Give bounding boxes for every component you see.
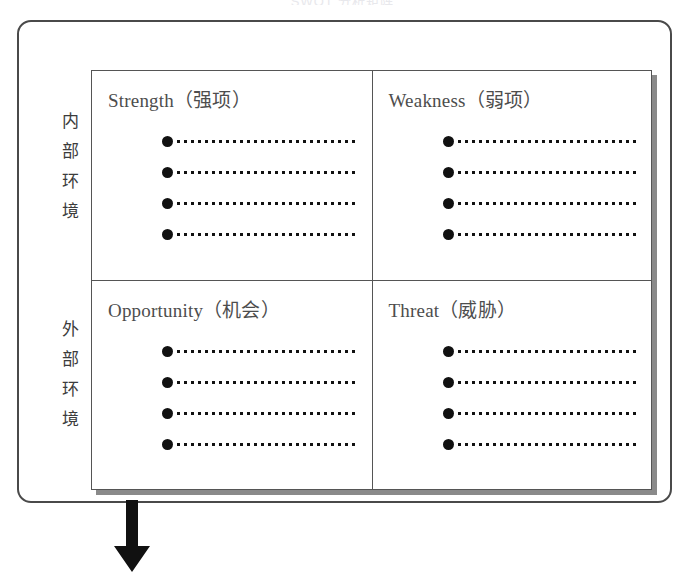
external-environment-label: 外 部 环 境 [55,314,85,434]
internal-env-char-1: 内 [55,106,85,136]
dotted-leader-line [456,233,638,236]
quadrant-threat: Threat（威胁） [372,280,652,489]
quadrant-weakness-bullets [389,126,652,250]
dotted-leader-line [175,202,358,205]
dotted-leader-line [456,350,638,353]
list-item[interactable] [389,126,652,157]
list-item[interactable] [389,429,652,460]
quadrant-strength-title: Strength（强项） [108,85,372,112]
dotted-leader-line [456,202,638,205]
quadrant-strength: Strength（强项） [92,71,372,280]
bullet-dot-icon [443,198,454,209]
bullet-dot-icon [162,377,173,388]
dotted-leader-line [175,381,358,384]
bullet-dot-icon [443,167,454,178]
list-item[interactable] [108,429,372,460]
list-item[interactable] [389,219,652,250]
bullet-dot-icon [443,229,454,240]
list-item[interactable] [389,188,652,219]
bullet-dot-icon [162,439,173,450]
list-item[interactable] [108,157,372,188]
list-item[interactable] [389,367,652,398]
list-item[interactable] [108,367,372,398]
external-env-char-2: 部 [55,344,85,374]
bullet-dot-icon [443,136,454,147]
quadrant-threat-title: Threat（威胁） [389,295,652,322]
quadrant-weakness-title: Weakness（弱项） [389,85,652,112]
internal-env-char-2: 部 [55,136,85,166]
dotted-leader-line [175,350,358,353]
bullet-dot-icon [162,167,173,178]
bullet-dot-icon [162,229,173,240]
list-item[interactable] [389,398,652,429]
bullet-dot-icon [162,136,173,147]
external-env-char-1: 外 [55,314,85,344]
bullet-dot-icon [443,408,454,419]
internal-env-char-3: 环 [55,166,85,196]
swot-outer-frame: 内 部 环 境 外 部 环 境 Strength（强项） Weakness（弱项… [17,20,672,503]
quadrant-opportunity-bullets [108,336,372,460]
list-item[interactable] [389,336,652,367]
quadrant-opportunity-title: Opportunity（机会） [108,295,372,322]
list-item[interactable] [108,188,372,219]
list-item[interactable] [108,336,372,367]
dotted-leader-line [175,233,358,236]
dotted-leader-line [456,140,638,143]
dotted-leader-line [175,443,358,446]
list-item[interactable] [108,126,372,157]
dotted-leader-line [175,171,358,174]
quadrant-strength-bullets [108,126,372,250]
list-item[interactable] [108,219,372,250]
dotted-leader-line [456,412,638,415]
dotted-leader-line [456,443,638,446]
internal-env-char-4: 境 [55,196,85,226]
internal-environment-label: 内 部 环 境 [55,106,85,226]
bullet-dot-icon [162,346,173,357]
bullet-dot-icon [443,439,454,450]
list-item[interactable] [389,157,652,188]
quadrant-threat-bullets [389,336,652,460]
list-item[interactable] [108,398,372,429]
external-env-char-4: 境 [55,404,85,434]
quadrant-opportunity: Opportunity（机会） [92,280,372,489]
bullet-dot-icon [443,377,454,388]
dotted-leader-line [456,381,638,384]
external-env-char-3: 环 [55,374,85,404]
dotted-leader-line [175,140,358,143]
bullet-dot-icon [162,198,173,209]
dotted-leader-line [175,412,358,415]
page-title-sliver: SWOT 分析矩阵 [0,0,685,5]
dotted-leader-line [456,171,638,174]
bullet-dot-icon [443,346,454,357]
quadrant-weakness: Weakness（弱项） [372,71,652,280]
bullet-dot-icon [162,408,173,419]
swot-matrix: Strength（强项） Weakness（弱项） Opportunity（机会… [91,70,652,490]
down-arrow-icon [112,500,152,573]
